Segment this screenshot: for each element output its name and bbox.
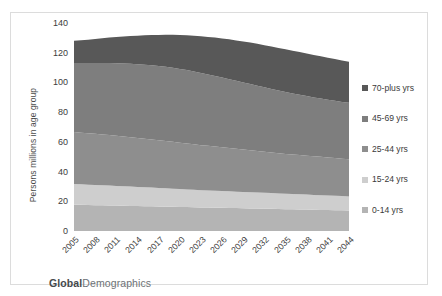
y-tick-label: 140 (53, 18, 68, 28)
y-tick-label: 20 (58, 196, 68, 206)
y-tick-label: 40 (58, 167, 68, 177)
stacked-area-svg (74, 23, 349, 231)
x-axis-ticks: 2005200820112014201720202023202620292032… (74, 233, 359, 277)
brand-strong-text: Global (49, 277, 82, 289)
y-axis-title-label: Persons millions in age group (28, 88, 38, 202)
x-tick-label: 2020 (166, 234, 187, 255)
legend-item[interactable]: 0-14 yrs (362, 195, 442, 226)
y-tick-label: 0 (63, 226, 68, 236)
legend-swatch-icon (362, 116, 368, 122)
legend-item[interactable]: 25-44 yrs (362, 134, 442, 165)
x-tick-label: 2035 (272, 234, 293, 255)
legend-swatch-icon (362, 207, 368, 213)
brand-light-text: Demographics (82, 277, 151, 289)
legend-label: 0-14 yrs (372, 206, 403, 215)
chart-legend: 70-plus yrs45-69 yrs25-44 yrs15-24 yrs0-… (362, 73, 442, 226)
x-tick-label: 2014 (124, 234, 145, 255)
x-tick-label: 2023 (187, 234, 208, 255)
legend-label: 15-24 yrs (372, 175, 408, 184)
y-axis-ticks: 020406080100120140 (41, 23, 72, 231)
x-tick-label: 2041 (314, 234, 335, 255)
legend-item[interactable]: 15-24 yrs (362, 165, 442, 196)
x-tick-label: 2032 (251, 234, 272, 255)
y-tick-label: 80 (58, 107, 68, 117)
legend-label: 70-plus yrs (372, 84, 414, 93)
legend-label: 25-44 yrs (372, 145, 408, 154)
x-tick-label: 2017 (145, 234, 166, 255)
x-tick-label: 2008 (81, 234, 102, 255)
brand-logo: GlobalDemographics (49, 277, 151, 289)
y-tick-label: 100 (53, 77, 68, 87)
x-tick-label: 2026 (208, 234, 229, 255)
stacked-area-plot (74, 23, 349, 231)
x-tick-label: 2011 (102, 234, 122, 254)
x-tick-label: 2044 (335, 234, 356, 255)
plot-area (74, 23, 349, 231)
x-tick-label: 2005 (60, 234, 81, 255)
x-tick-label: 2029 (229, 234, 250, 255)
x-tick-label: 2038 (293, 234, 314, 255)
legend-item[interactable]: 45-69 yrs (362, 104, 442, 135)
legend-swatch-icon (362, 146, 368, 152)
legend-item[interactable]: 70-plus yrs (362, 73, 442, 104)
legend-swatch-icon (362, 85, 368, 91)
y-axis-title: Persons millions in age group (25, 65, 41, 225)
chart-frame: Persons millions in age group 0204060801… (10, 12, 428, 285)
legend-label: 45-69 yrs (372, 114, 408, 123)
legend-swatch-icon (362, 177, 368, 183)
y-tick-label: 60 (58, 137, 68, 147)
y-tick-label: 120 (53, 48, 68, 58)
